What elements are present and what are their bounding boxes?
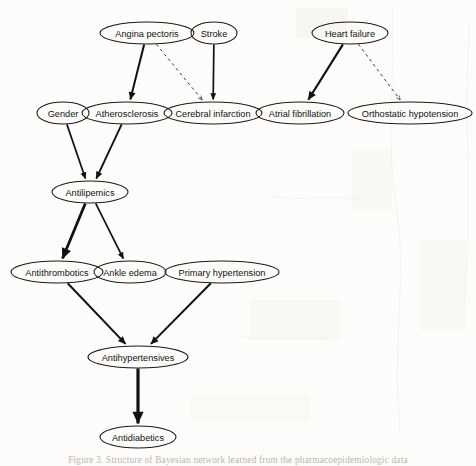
graph-edge-antithrombotics-to-antihypertensives	[68, 283, 126, 344]
node-layer: Angina pectorisStrokeHeart failureGender…	[11, 22, 472, 448]
graph-node-antilipemics[interactable]: Antilipemics	[52, 181, 128, 203]
graph-node-atherosclerosis[interactable]: Atherosclerosis	[82, 102, 172, 124]
graph-edge-heart_failure-to-atrial_fibrillation	[308, 44, 343, 99]
graph-node-primary_hypertension[interactable]: Primary hypertension	[165, 261, 279, 283]
graph-node-orthostatic_hypotension[interactable]: Orthostatic hypotension	[348, 102, 472, 124]
graph-edge-primary_hypertension-to-antihypertensives	[151, 283, 211, 344]
node-label-stroke: Stroke	[201, 29, 228, 39]
graph-edge-gender-to-antilipemics	[67, 124, 86, 178]
graph-edge-atherosclerosis-to-antilipemics	[96, 124, 121, 178]
graph-node-antidiabetics[interactable]: Antidiabetics	[100, 426, 176, 448]
graph-node-atrial_fibrillation[interactable]: Atrial fibrillation	[256, 102, 344, 124]
node-label-primary_hypertension: Primary hypertension	[179, 268, 266, 278]
network-graph: Angina pectorisStrokeHeart failureGender…	[0, 0, 476, 466]
graph-node-ankle_edema[interactable]: Ankle edema	[94, 261, 166, 283]
graph-edge-antilipemics-to-antithrombotics	[63, 203, 86, 258]
graph-edge-stroke-to-cerebral_infarction	[213, 45, 214, 100]
graph-edge-heart_failure-to-orthostatic_hypotension	[358, 44, 400, 99]
node-label-antilipemics: Antilipemics	[65, 188, 114, 198]
node-label-cerebral_infarction: Cerebral infarction	[175, 109, 250, 119]
node-label-heart_failure: Heart failure	[325, 29, 375, 39]
graph-node-angina_pectoris[interactable]: Angina pectoris	[100, 22, 194, 44]
figure-caption: Figure 3. Structure of Bayesian network …	[0, 455, 476, 466]
graph-node-cerebral_infarction[interactable]: Cerebral infarction	[164, 102, 262, 124]
node-label-antithrombotics: Antithrombotics	[25, 268, 89, 278]
graph-edge-antilipemics-to-ankle_edema	[96, 203, 124, 258]
graph-edge-angina_pectoris-to-atherosclerosis	[130, 44, 144, 99]
graph-node-gender[interactable]: Gender	[37, 102, 89, 124]
node-label-gender: Gender	[48, 109, 79, 119]
graph-node-antithrombotics[interactable]: Antithrombotics	[11, 261, 103, 283]
node-label-angina_pectoris: Angina pectoris	[115, 29, 179, 39]
node-label-ankle_edema: Ankle edema	[103, 268, 158, 278]
graph-edge-angina_pectoris-to-cerebral_infarction	[156, 44, 202, 100]
graph-node-stroke[interactable]: Stroke	[191, 22, 237, 44]
graph-node-antihypertensives[interactable]: Antihypertensives	[88, 346, 188, 368]
node-label-antidiabetics: Antidiabetics	[112, 433, 164, 443]
node-label-atrial_fibrillation: Atrial fibrillation	[269, 109, 331, 119]
graph-node-heart_failure[interactable]: Heart failure	[312, 22, 388, 44]
node-label-atherosclerosis: Atherosclerosis	[96, 109, 159, 119]
figure-canvas: Angina pectorisStrokeHeart failureGender…	[0, 0, 476, 466]
node-label-antihypertensives: Antihypertensives	[102, 353, 175, 363]
node-label-orthostatic_hypotension: Orthostatic hypotension	[362, 109, 459, 119]
